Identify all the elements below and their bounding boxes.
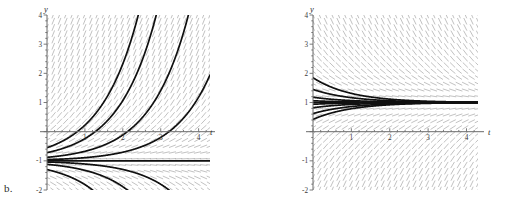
slope-tick <box>171 31 173 37</box>
slope-tick <box>202 100 205 105</box>
slope-tick <box>374 132 379 136</box>
slope-tick <box>432 150 436 155</box>
slope-tick <box>412 56 416 61</box>
slope-tick <box>101 138 107 141</box>
slope-tick <box>183 125 188 129</box>
slope-tick <box>367 89 373 91</box>
slope-tick <box>323 126 328 130</box>
slope-tick <box>457 138 462 142</box>
slope-tick <box>108 31 110 37</box>
slope-tick <box>362 18 365 24</box>
slope-tick <box>90 75 93 81</box>
slope-tick <box>58 50 60 56</box>
slope-tick <box>52 12 54 18</box>
slope-tick <box>431 56 435 61</box>
slope-tick <box>451 187 454 193</box>
slope-tick <box>115 56 117 62</box>
slope-tick <box>207 165 213 166</box>
slope-tick <box>96 68 98 74</box>
slope-tick <box>381 138 386 142</box>
slope-tick <box>76 106 80 111</box>
slope-tick <box>323 132 328 136</box>
slope-tick <box>330 150 334 155</box>
slope-tick <box>189 100 192 105</box>
slope-tick <box>418 132 423 136</box>
slope-tick <box>362 56 366 61</box>
slope-tick <box>470 168 473 174</box>
slope-tick <box>375 50 379 55</box>
slope-tick <box>458 18 461 24</box>
slope-tick <box>89 100 92 105</box>
slope-tick <box>132 132 137 136</box>
slope-tick <box>444 156 448 161</box>
slope-tick <box>324 44 328 49</box>
slope-tick <box>476 69 481 73</box>
slope-tick <box>406 63 411 67</box>
slope-tick <box>108 50 110 56</box>
slope-tick <box>405 120 411 123</box>
slope-tick <box>58 12 60 18</box>
slope-tick <box>70 188 75 192</box>
slope-tick <box>449 96 455 97</box>
slope-tick <box>133 113 137 118</box>
slope-tick <box>343 37 346 42</box>
slope-tick <box>336 69 341 73</box>
slope-tick <box>443 114 449 116</box>
slope-tick <box>159 12 161 18</box>
slope-tick <box>209 25 211 31</box>
slope-tick <box>63 132 68 136</box>
slope-tick <box>388 175 391 181</box>
slope-tick <box>412 76 417 80</box>
slope-tick <box>132 188 137 192</box>
slope-tick <box>133 87 136 93</box>
slope-tick <box>443 96 449 97</box>
slope-tick <box>70 125 75 129</box>
slope-tick <box>457 162 460 167</box>
slope-tick <box>405 89 411 91</box>
slope-tick <box>386 76 391 80</box>
slope-tick <box>420 181 423 187</box>
slope-tick <box>393 63 398 67</box>
slope-tick <box>426 12 429 18</box>
slope-tick <box>388 25 391 31</box>
slope-tick <box>138 182 143 185</box>
slope-tick <box>51 125 56 129</box>
slope-tick <box>412 138 417 142</box>
slope-tick <box>165 87 168 93</box>
slope-tick <box>190 68 192 74</box>
slope-tick <box>476 31 479 37</box>
slope-tick <box>95 100 98 105</box>
slope-tick <box>407 18 410 24</box>
slope-tick <box>108 100 111 105</box>
slope-tick <box>388 168 391 174</box>
slope-tick <box>132 145 138 147</box>
slope-field-b <box>44 12 213 192</box>
slope-tick <box>82 188 87 192</box>
slope-tick <box>464 44 468 49</box>
slope-tick <box>450 126 455 130</box>
slope-tick <box>196 68 199 74</box>
slope-tick <box>424 120 430 123</box>
slope-tick <box>146 12 148 18</box>
slope-tick <box>464 156 468 161</box>
slope-tick <box>406 50 410 55</box>
slope-tick <box>432 168 435 174</box>
slope-tick <box>432 25 435 31</box>
slope-tick <box>102 106 106 111</box>
slope-tick <box>451 56 455 61</box>
slope-tick <box>361 76 366 80</box>
slope-tick <box>470 12 473 18</box>
slope-tick <box>432 37 435 42</box>
slope-tick <box>65 62 67 68</box>
slope-tick <box>399 126 404 130</box>
slope-tick <box>318 12 321 18</box>
slope-tick <box>90 62 92 68</box>
slope-tick <box>152 87 155 93</box>
slope-tick <box>336 63 341 67</box>
slope-tick <box>157 170 163 172</box>
slope-tick <box>107 165 113 166</box>
slope-tick <box>431 76 436 80</box>
slope-tick <box>368 132 373 136</box>
slope-tick <box>159 37 161 43</box>
slope-tick <box>188 152 194 153</box>
